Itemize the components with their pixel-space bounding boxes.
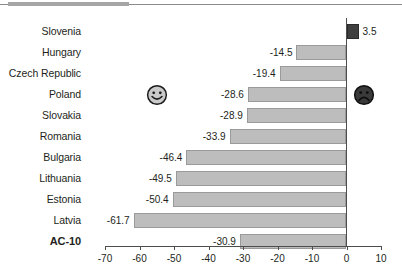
category-label-estonia: Estonia — [0, 189, 81, 210]
bar-value-label: -50.4 — [129, 191, 169, 208]
x-tick — [174, 246, 175, 250]
bar-value-label: -14.5 — [252, 44, 292, 61]
x-tick — [243, 246, 244, 250]
x-tick — [381, 246, 382, 250]
chart-row: Lithuania-49.5 — [0, 168, 402, 189]
bar-slovenia — [347, 24, 359, 39]
bar-value-label: -28.9 — [203, 107, 243, 124]
chart-row: Poland-28.6 — [0, 84, 402, 105]
bar-slovakia — [247, 108, 347, 123]
x-axis: -70-60-50-40-30-20-10010 — [0, 246, 402, 275]
x-tick-label: 10 — [361, 253, 401, 264]
bar-hungary — [296, 45, 346, 60]
category-label-hungary: Hungary — [0, 42, 81, 63]
sad-face-icon — [353, 84, 375, 106]
category-label-poland: Poland — [0, 84, 81, 105]
bar-value-label: -28.6 — [204, 86, 244, 103]
x-tick — [140, 246, 141, 250]
bar-value-label: -19.4 — [236, 65, 276, 82]
bar-bulgaria — [186, 150, 346, 165]
category-label-czech-republic: Czech Republic — [0, 63, 81, 84]
category-label-slovakia: Slovakia — [0, 105, 81, 126]
bar-estonia — [173, 192, 347, 207]
bar-romania — [230, 129, 347, 144]
chart-row: Hungary-14.5 — [0, 42, 402, 63]
chart-row: Estonia-50.4 — [0, 189, 402, 210]
x-tick — [347, 246, 348, 250]
chart-row: Latvia-61.7 — [0, 210, 402, 231]
bar-value-label: -46.4 — [142, 149, 182, 166]
bar-lithuania — [176, 171, 347, 186]
category-label-romania: Romania — [0, 126, 81, 147]
chart-row: Slovenia3.5 — [0, 21, 402, 42]
bar-latvia — [134, 213, 347, 228]
chart-row: Bulgaria-46.4 — [0, 147, 402, 168]
bar-chart: Slovenia3.5Hungary-14.5Czech Republic-19… — [0, 18, 402, 275]
plot-area: Slovenia3.5Hungary-14.5Czech Republic-19… — [0, 18, 402, 246]
x-tick — [105, 246, 106, 250]
x-tick — [209, 246, 210, 250]
smiley-face-icon — [146, 84, 168, 106]
category-label-latvia: Latvia — [0, 210, 81, 231]
category-label-bulgaria: Bulgaria — [0, 147, 81, 168]
header-rule-accent — [8, 2, 129, 6]
bar-czech-republic — [280, 66, 347, 81]
chart-row: Czech Republic-19.4 — [0, 63, 402, 84]
bar-poland — [248, 87, 347, 102]
x-tick — [278, 246, 279, 250]
bar-value-label: -33.9 — [186, 128, 226, 145]
bar-value-label: -61.7 — [90, 212, 130, 229]
category-label-lithuania: Lithuania — [0, 168, 81, 189]
category-label-slovenia: Slovenia — [0, 21, 81, 42]
bar-value-label: 3.5 — [363, 23, 402, 40]
chart-row: Romania-33.9 — [0, 126, 402, 147]
x-tick — [312, 246, 313, 250]
chart-row: Slovakia-28.9 — [0, 105, 402, 126]
bar-value-label: -49.5 — [132, 170, 172, 187]
